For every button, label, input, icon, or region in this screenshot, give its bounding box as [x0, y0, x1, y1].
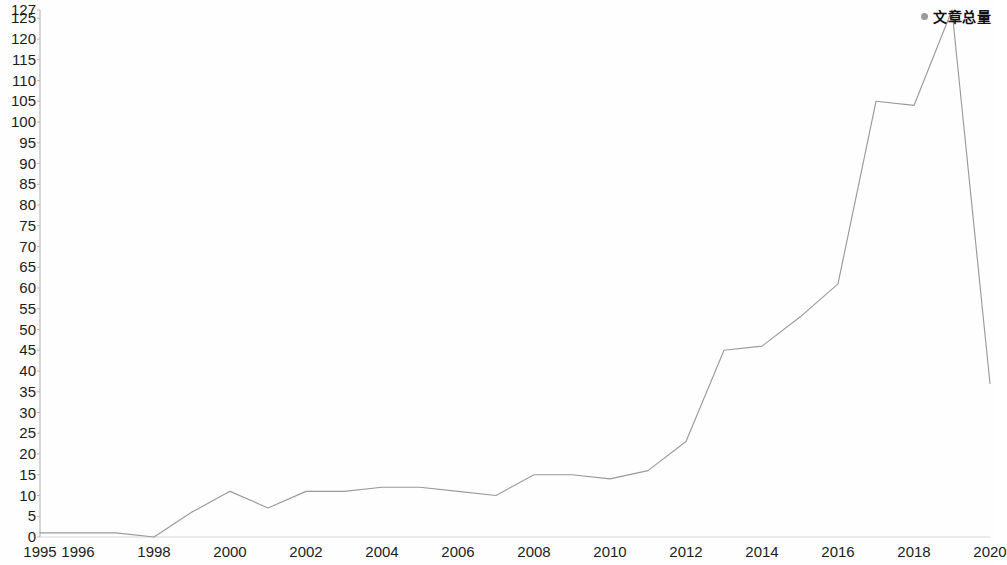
x-tick-text: 2000 [213, 543, 246, 560]
x-tick-text: 1995 [23, 543, 56, 560]
x-tick-text: 2006 [441, 543, 474, 560]
x-tick-text: 2010 [593, 543, 626, 560]
x-tick-text: 2004 [365, 543, 398, 560]
x-tick-text: 2002 [289, 543, 322, 560]
x-tick-text: 2008 [517, 543, 550, 560]
legend: 文章总量 [921, 6, 991, 26]
x-tick-text: 2014 [745, 543, 778, 560]
x-tick-text: 2016 [821, 543, 854, 560]
x-tick-text: 1996 [61, 543, 94, 560]
x-tick-text: 2018 [897, 543, 930, 560]
x-tick-text: 2012 [669, 543, 702, 560]
legend-label: 文章总量 [933, 6, 991, 26]
legend-dot-icon [921, 13, 928, 20]
x-tick-text: 1998 [137, 543, 170, 560]
x-tick-text: 2020 [973, 543, 1006, 560]
